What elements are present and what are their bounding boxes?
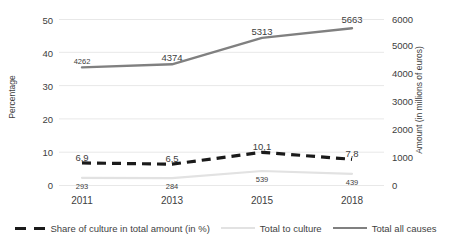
- chart-legend: Share of culture in total amount (in %) …: [0, 218, 452, 238]
- right-axis-tick: 0: [392, 181, 426, 191]
- data-label-total-to-culture: 539: [256, 175, 269, 184]
- right-axis-tick: 3000: [392, 97, 426, 107]
- data-label-total-all-causes: 4374: [161, 52, 182, 63]
- series-line-total-all-causes: [82, 28, 352, 67]
- gridlines: [59, 20, 384, 186]
- left-axis-tick: 0: [27, 181, 53, 191]
- legend-item-total-to-culture[interactable]: Total to culture: [221, 223, 322, 234]
- light-line-swatch-icon: [221, 227, 255, 229]
- legend-label: Total to culture: [260, 223, 322, 234]
- left-axis-title: Percentage: [7, 65, 17, 129]
- right-axis-tick: 4000: [392, 69, 426, 79]
- left-axis-tick: 10: [27, 148, 53, 158]
- left-axis-tick: 30: [27, 82, 53, 92]
- x-axis-tick: 2015: [239, 196, 285, 206]
- data-label-share-of-culture: 7,8: [345, 148, 358, 159]
- right-axis-tick: 5000: [392, 41, 426, 51]
- dashed-line-swatch-icon: [15, 224, 45, 233]
- data-label-total-to-culture: 293: [76, 182, 89, 191]
- legend-item-total-all-causes[interactable]: Total all causes: [333, 223, 437, 234]
- data-label-total-all-causes: 5313: [251, 26, 272, 37]
- x-axis-tick: 2018: [329, 196, 375, 206]
- plot-svg: [59, 19, 384, 186]
- data-label-total-to-culture: 439: [346, 178, 359, 187]
- data-label-share-of-culture: 6,5: [165, 153, 178, 164]
- legend-label: Share of culture in total amount (in %): [50, 223, 209, 234]
- series-line-share-of-culture: [82, 152, 352, 164]
- data-label-total-to-culture: 284: [166, 182, 179, 191]
- left-axis-tick: 40: [27, 49, 53, 59]
- right-axis-tick: 6000: [392, 15, 426, 25]
- data-label-total-all-causes: 5663: [341, 14, 362, 25]
- left-axis-tick: 20: [27, 115, 53, 125]
- data-label-share-of-culture: 10,1: [253, 141, 272, 152]
- legend-item-share-of-culture[interactable]: Share of culture in total amount (in %): [15, 223, 209, 234]
- legend-label: Total all causes: [372, 223, 437, 234]
- right-axis-tick: 1000: [392, 153, 426, 163]
- dark-line-swatch-icon: [333, 227, 367, 230]
- x-axis-tick: 2011: [59, 196, 105, 206]
- plot-area: [59, 19, 384, 186]
- right-axis-tick: 2000: [392, 125, 426, 135]
- x-axis-tick: 2013: [149, 196, 195, 206]
- data-label-share-of-culture: 6,9: [75, 152, 88, 163]
- line-chart: Percentage Amount (in millions of euros)…: [0, 0, 452, 244]
- series-line-total-to-culture: [82, 171, 352, 178]
- data-label-total-all-causes: 4262: [74, 57, 91, 66]
- left-axis-tick: 50: [27, 16, 53, 26]
